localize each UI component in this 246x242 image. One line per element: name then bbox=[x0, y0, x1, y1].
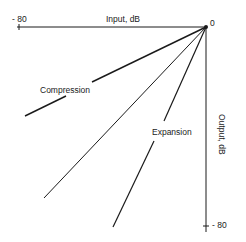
input-max-label: 0 bbox=[210, 19, 215, 28]
input-axis-label: Input, dB bbox=[106, 15, 140, 24]
expansion-line-upper bbox=[164, 27, 206, 121]
input-min-label: - 80 bbox=[12, 15, 27, 24]
output-axis-label: Output, dB bbox=[218, 114, 227, 155]
output-min-label: - 80 bbox=[212, 221, 227, 230]
expansion-line-lower bbox=[113, 141, 154, 227]
compression-line-upper bbox=[92, 27, 206, 82]
unity-line bbox=[44, 27, 206, 198]
compression-line-lower bbox=[25, 96, 66, 116]
expansion-label: Expansion bbox=[152, 128, 192, 137]
compression-label: Compression bbox=[40, 86, 90, 95]
compression-expansion-diagram bbox=[0, 0, 246, 242]
